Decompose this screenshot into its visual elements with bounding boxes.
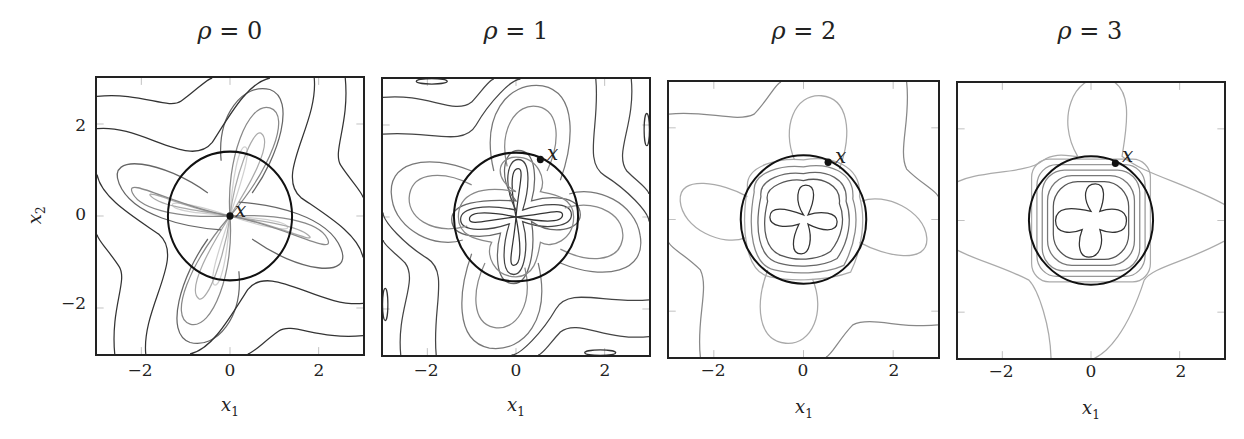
panel-title-rho1: ρ = 1 — [416, 17, 616, 45]
point-x-label: x — [547, 141, 558, 165]
xtick-neg2: −2 — [406, 360, 446, 380]
point-x-label: x — [1122, 143, 1133, 167]
ytick-0: 0 — [46, 204, 86, 224]
x-axis-label-text: x — [507, 394, 517, 415]
x-axis-label-sub: 1 — [517, 405, 525, 419]
ytick-2: 2 — [46, 115, 86, 135]
y-axis-label-text: x — [24, 214, 45, 224]
xtick-0: 0 — [1071, 361, 1111, 381]
xtick-2: 2 — [585, 360, 625, 380]
xtick-2: 2 — [874, 360, 914, 380]
contour-plot-rho3: x — [956, 81, 1226, 360]
x-axis-label-text: x — [795, 396, 805, 417]
panel-title-rho3: ρ = 3 — [990, 17, 1190, 45]
xtick-neg2: −2 — [981, 361, 1021, 381]
contour-svg — [958, 83, 1224, 358]
rho-symbol: ρ — [772, 17, 786, 45]
contour-plot-rho0: x — [95, 76, 365, 356]
x-axis-label-sub: 1 — [231, 405, 239, 419]
panel-title-rho0: ρ = 0 — [130, 17, 330, 45]
x-axis-label: x1 — [200, 394, 260, 419]
contour-plot-rho1: x — [381, 77, 651, 357]
rho-value: = 1 — [505, 17, 548, 45]
x-axis-label-text: x — [221, 394, 231, 415]
y-axis-label: x2 — [24, 195, 49, 235]
rho-symbol: ρ — [1058, 17, 1072, 45]
rho-value: = 3 — [1079, 17, 1122, 45]
rho-value: = 0 — [219, 17, 262, 45]
xtick-0: 0 — [496, 360, 536, 380]
point-x-label: x — [235, 198, 246, 222]
ytick-neg2: −2 — [46, 293, 86, 313]
xtick-neg2: −2 — [120, 360, 160, 380]
contour-svg — [383, 79, 649, 355]
panel-title-rho2: ρ = 2 — [704, 17, 904, 45]
rho-value: = 2 — [793, 17, 836, 45]
xtick-0: 0 — [783, 360, 823, 380]
rho-symbol: ρ — [198, 17, 212, 45]
x-axis-label: x1 — [1061, 397, 1121, 422]
x-axis-label-sub: 1 — [805, 407, 813, 421]
rho-symbol: ρ — [484, 17, 498, 45]
xtick-2: 2 — [1161, 361, 1201, 381]
point-x-label: x — [835, 144, 846, 168]
contour-svg — [97, 78, 363, 354]
xtick-0: 0 — [210, 360, 250, 380]
x-axis-label-sub: 1 — [1092, 408, 1100, 422]
xtick-2: 2 — [299, 360, 339, 380]
x-axis-label: x1 — [486, 394, 546, 419]
x-axis-label-text: x — [1082, 397, 1092, 418]
contour-plot-rho2: x — [667, 80, 940, 359]
x-axis-label: x1 — [774, 396, 834, 421]
contour-svg — [669, 82, 938, 357]
xtick-neg2: −2 — [693, 360, 733, 380]
